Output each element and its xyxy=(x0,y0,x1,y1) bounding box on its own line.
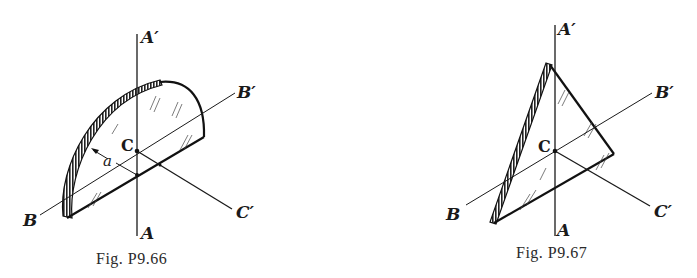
label-c-prime: C′ xyxy=(236,202,255,222)
label-radius: a xyxy=(103,152,112,170)
label-b: B xyxy=(22,210,37,230)
label-b-prime: B′ xyxy=(654,82,674,102)
figure-canvas: A′ A B B′ C C′ a Fig. P9.66 xyxy=(0,0,697,278)
label-b: B xyxy=(445,204,460,224)
label-c: C xyxy=(121,136,134,155)
edge-point-2 xyxy=(159,164,162,167)
centroid-point xyxy=(135,149,140,154)
label-c-prime: C′ xyxy=(654,201,673,221)
centroid-point xyxy=(553,149,558,154)
label-b-prime: B′ xyxy=(236,82,256,102)
caption-p9-66: Fig. P9.66 xyxy=(96,250,167,268)
figure-p9-67: A′ A B B′ C C′ Fig. P9.67 xyxy=(445,19,674,262)
label-c: C xyxy=(538,137,551,156)
axis-c-c-prime xyxy=(137,151,232,209)
triangle-face xyxy=(493,64,614,222)
caption-p9-67: Fig. P9.67 xyxy=(516,244,587,262)
figure-p9-66: A′ A B B′ C C′ a Fig. P9.66 xyxy=(22,27,256,268)
label-a: A xyxy=(555,220,570,240)
label-a-prime: A′ xyxy=(139,27,159,47)
label-a: A xyxy=(139,223,154,243)
edge-point xyxy=(135,173,139,177)
label-a-prime: A′ xyxy=(556,19,576,39)
